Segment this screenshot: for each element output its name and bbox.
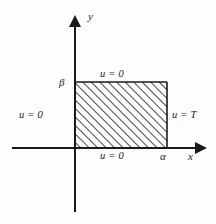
boundary-condition-right: u = T bbox=[172, 109, 196, 120]
boundary-condition-top: u = 0 bbox=[100, 68, 124, 79]
boundary-condition-bottom: u = 0 bbox=[100, 150, 124, 161]
boundary-value-problem-diagram: y x β α u = 0 u = 0 u = T u = 0 bbox=[0, 0, 216, 224]
y-axis-label: y bbox=[88, 10, 93, 22]
x-axis-label: x bbox=[188, 150, 193, 162]
y-extent-label-beta: β bbox=[59, 76, 65, 88]
x-extent-label-alpha: α bbox=[160, 150, 166, 162]
hatched-region bbox=[75, 82, 167, 148]
boundary-condition-left: u = 0 bbox=[19, 109, 43, 120]
